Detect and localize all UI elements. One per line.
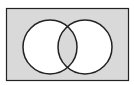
venn-diagram — [0, 0, 134, 85]
